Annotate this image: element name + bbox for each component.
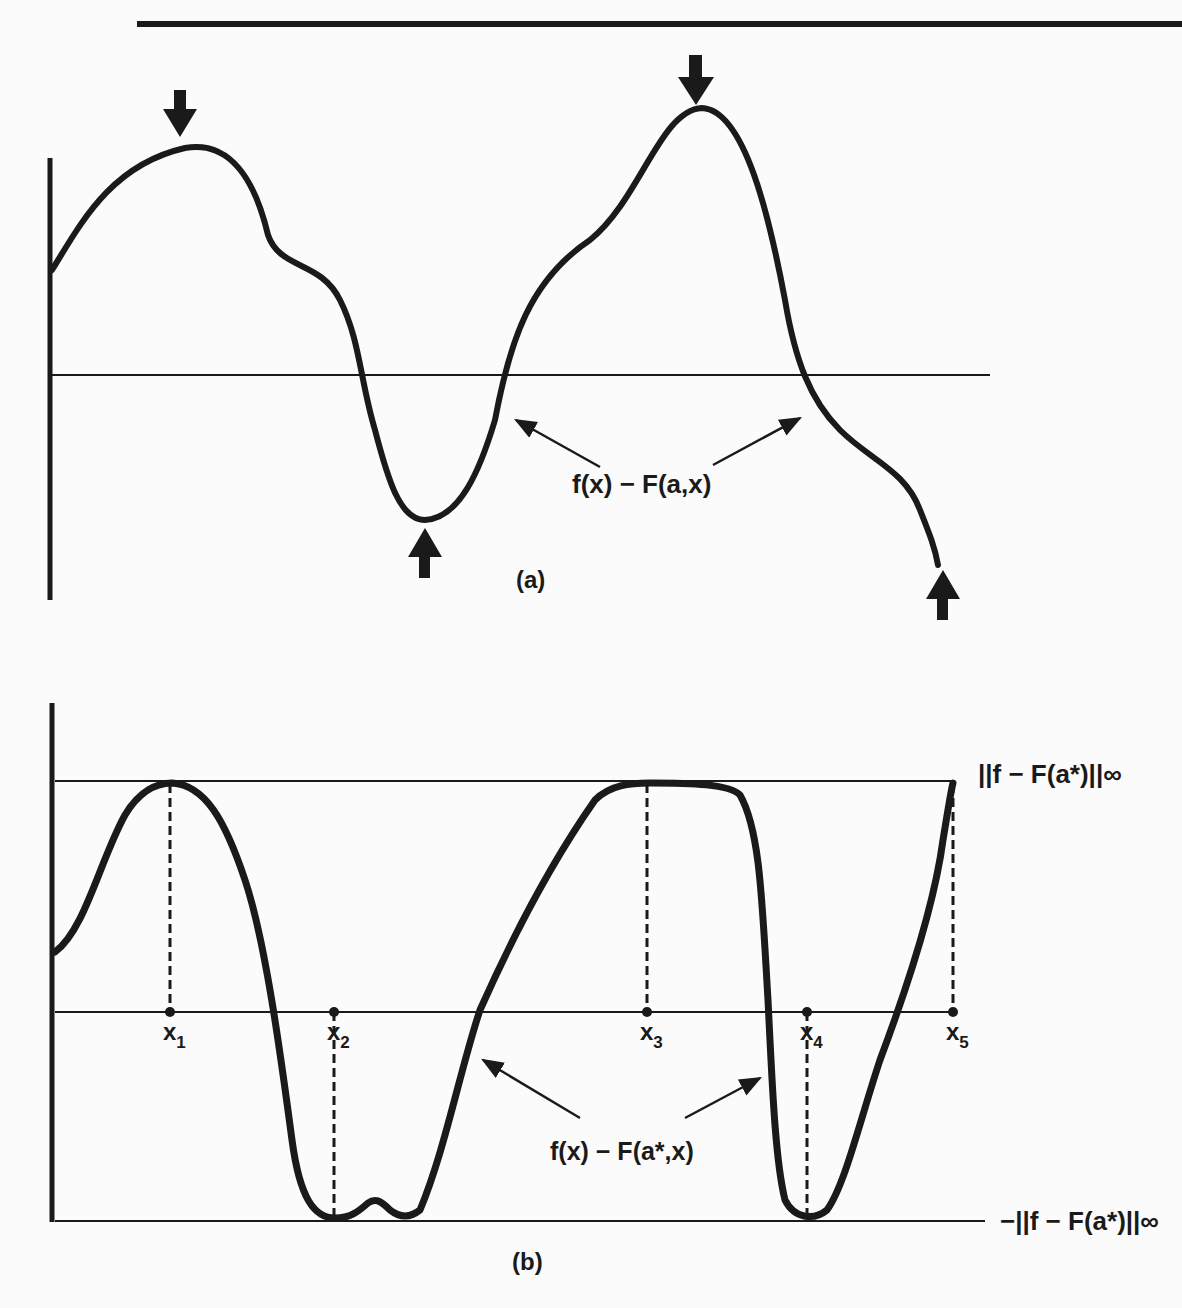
down-arrow-icon xyxy=(678,55,714,105)
up-arrow-icon xyxy=(408,528,442,578)
point-x3 xyxy=(642,1007,652,1017)
down-arrow-icon xyxy=(163,90,197,137)
equioscillation-figure: f(x) − F(a,x) (a) x1 x2 xyxy=(0,0,1182,1308)
label-x3: x3 xyxy=(640,1018,663,1052)
panel-label-b: (b) xyxy=(512,1248,543,1275)
label-x1: x1 xyxy=(163,1018,186,1052)
error-curve-b xyxy=(55,783,953,1218)
curve-label-b: f(x) − F(a*,x) xyxy=(550,1137,694,1165)
point-x4 xyxy=(802,1007,812,1017)
pointer-arrow-left xyxy=(516,420,600,467)
error-curve-a xyxy=(52,108,938,565)
point-x1 xyxy=(165,1007,175,1017)
pointer-arrow-right xyxy=(685,1078,760,1118)
label-x2: x2 xyxy=(327,1018,350,1052)
pointer-arrow-left xyxy=(483,1060,580,1118)
curve-label-a: f(x) − F(a,x) xyxy=(572,469,711,499)
point-x2 xyxy=(329,1007,339,1017)
panel-a: f(x) − F(a,x) (a) xyxy=(50,55,990,620)
label-x5: x5 xyxy=(946,1018,969,1052)
upper-bound-label: ||f − F(a*)||∞ xyxy=(978,759,1122,789)
point-x5 xyxy=(948,1007,958,1017)
pointer-arrow-right xyxy=(713,418,800,465)
panel-label-a: (a) xyxy=(516,566,545,593)
up-arrow-icon xyxy=(926,570,960,620)
lower-bound-label: −||f − F(a*)||∞ xyxy=(1000,1206,1159,1236)
label-x4: x4 xyxy=(800,1018,823,1052)
panel-b: x1 x2 x3 x4 x5 f(x) − F(a*,x) ||f − F(a*… xyxy=(52,703,1159,1275)
